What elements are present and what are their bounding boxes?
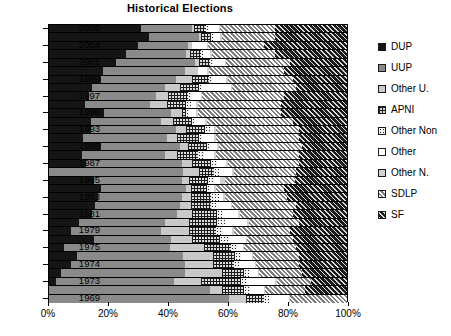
y-axis-label: 1974 (79, 259, 100, 269)
bar-segment-apni (177, 151, 198, 158)
bar-segment-otheru (210, 286, 222, 293)
bar-segment-other (229, 236, 245, 243)
legend-label: SDLP (391, 188, 417, 199)
bar-segment-apni (191, 193, 212, 200)
bar-segment-apni (189, 219, 217, 226)
bar-segment-sf (293, 210, 347, 217)
bar-segment-other (198, 67, 207, 74)
bar-segment-uup (95, 202, 180, 209)
x-axis-tick (288, 302, 289, 306)
bar-segment-otheru (171, 109, 181, 116)
x-axis-label: 20% (83, 308, 133, 319)
bar-segment-othernon (220, 236, 229, 243)
bar-segment-apni (192, 76, 209, 83)
bar-segment-sdlp (232, 84, 296, 91)
bar-segment-sf (299, 126, 347, 133)
bar-segment-other (202, 134, 214, 141)
bar-segment-sdlp (198, 101, 281, 108)
legend-item[interactable]: DUP (378, 36, 450, 57)
bar-segment-apni (213, 252, 235, 259)
bar-segment-uup (92, 210, 177, 217)
x-axis-label: 100% (323, 308, 373, 319)
bar-segment-otheru (165, 151, 177, 158)
legend-item[interactable]: UUP (378, 57, 450, 78)
legend-swatch-uup (378, 64, 386, 72)
bar-segment-other (192, 92, 201, 99)
bar-segment-sf (281, 109, 347, 116)
bar-segment-dup (49, 151, 82, 158)
bar-segment-sf (302, 143, 347, 150)
legend-item[interactable]: Other U. (378, 78, 450, 99)
bar-segment-apni (173, 118, 192, 125)
bar-segment-otheru (180, 143, 187, 150)
chart-title: Historical Elections (0, 2, 360, 14)
bar-segment-othernon (217, 219, 224, 226)
bar-segment-other (249, 269, 258, 276)
bar-segment-sdlp (234, 227, 291, 234)
bar-segment-uup (92, 84, 165, 91)
bar-segment-apni (191, 185, 207, 192)
bar-segment-apni (199, 168, 214, 175)
y-axis-label: 1973 (79, 276, 100, 286)
bar-segment-apni (180, 84, 199, 91)
bar-segment-otheru (182, 177, 189, 184)
bar-segment-apni (246, 295, 264, 303)
bar-segment-other (189, 109, 196, 116)
legend-item[interactable]: APNI (378, 99, 450, 120)
bar-segment-sdlp (247, 236, 293, 243)
bar-segment-other (247, 278, 275, 285)
bar-segment-otheru (185, 269, 222, 276)
legend-item[interactable]: Other Non (378, 120, 450, 141)
bar-segment-sdlp (220, 25, 275, 32)
legend-item[interactable]: SF (378, 204, 450, 225)
bar-segment-uup (49, 286, 210, 293)
bar-segment-otheru (185, 261, 213, 268)
bar-segment-uup (104, 109, 171, 116)
y-axis-label: 1975 (79, 242, 100, 252)
bar-segment-sf (296, 84, 347, 91)
legend-item[interactable]: Other N. (378, 162, 450, 183)
bar-segment-sf (296, 244, 347, 251)
bar-segment-other (213, 76, 226, 83)
bar-segment-sf (290, 227, 347, 234)
bar-segment-other (202, 84, 230, 91)
bar-segment-sf (293, 118, 347, 125)
y-axis-tick (43, 281, 48, 282)
bar-segment-otheru (180, 202, 190, 209)
bar-segment-sf (296, 168, 347, 175)
legend-label: UUP (391, 62, 412, 73)
bar-segment-apni (222, 286, 244, 293)
bar-segment-sdlp (207, 118, 293, 125)
bar-segment-dup (49, 278, 56, 285)
y-axis-tick (43, 146, 48, 147)
x-axis-label: 40% (143, 308, 193, 319)
legend-label: DUP (391, 41, 412, 52)
bar-segment-sdlp (256, 261, 299, 268)
bar-segment-sdlp (244, 244, 296, 251)
bar-segment-sdlp (259, 269, 302, 276)
bar-segment-sdlp (216, 126, 299, 133)
x-axis-tick (348, 302, 349, 306)
chart-legend: DUPUUPOther U.APNIOther NonOtherOther N.… (378, 36, 450, 225)
bar-segment-sf (299, 134, 347, 141)
legend-item[interactable]: SDLP (378, 183, 450, 204)
bar-segment-otheru (167, 134, 177, 141)
bar-segment-otheru (174, 278, 201, 285)
x-axis-tick (168, 302, 169, 306)
legend-item[interactable]: Other (378, 141, 450, 162)
bar-segment-other (269, 295, 288, 303)
bar-segment-other (192, 42, 207, 49)
legend-label: SF (391, 209, 404, 220)
x-axis-tick (48, 302, 49, 306)
bar-segment-otheru (182, 193, 191, 200)
bar-segment-sdlp (225, 177, 295, 184)
bar-segment-uup (56, 278, 174, 285)
x-axis-label: 0% (23, 308, 73, 319)
legend-label: Other Non (391, 125, 437, 136)
bar-segment-sf (264, 42, 347, 49)
bar-segment-sdlp (216, 134, 299, 141)
bar-segment-sf (281, 101, 347, 108)
y-axis-tick (43, 197, 48, 198)
y-axis-tick (43, 96, 48, 97)
bar-segment-uup (101, 76, 176, 83)
